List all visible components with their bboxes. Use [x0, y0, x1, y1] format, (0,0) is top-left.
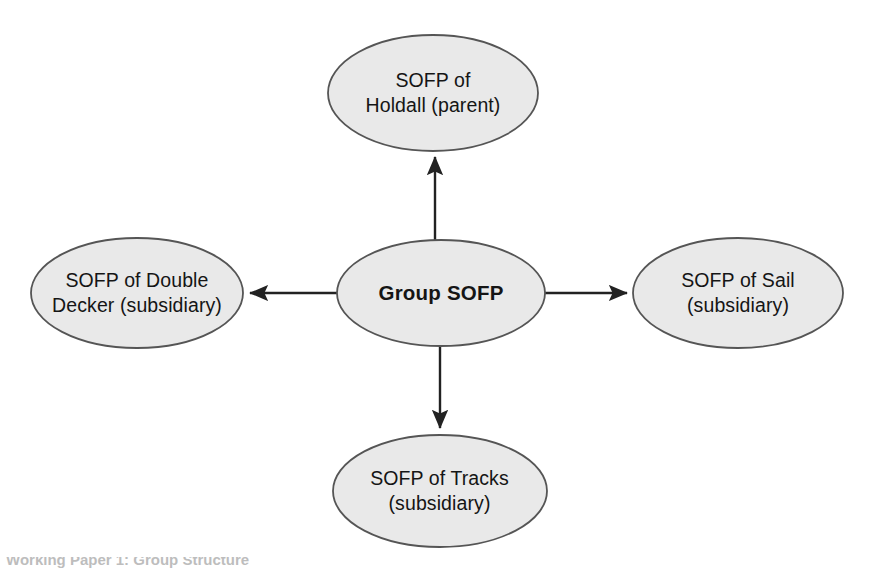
caption-text: Working Paper 1: Group Structure: [6, 557, 249, 568]
node-group: [31, 35, 843, 547]
node-top-ellipse[interactable]: [328, 35, 538, 151]
node-right-ellipse[interactable]: [633, 238, 843, 348]
caption-strip: Working Paper 1: Group Structure: [0, 557, 878, 569]
node-left-ellipse[interactable]: [31, 238, 243, 348]
diagram-svg: [0, 0, 878, 569]
diagram-canvas: SOFP of Holdall (parent) SOFP of Double …: [0, 0, 878, 569]
node-bottom-ellipse[interactable]: [333, 435, 547, 547]
node-center-ellipse[interactable]: [337, 240, 545, 346]
